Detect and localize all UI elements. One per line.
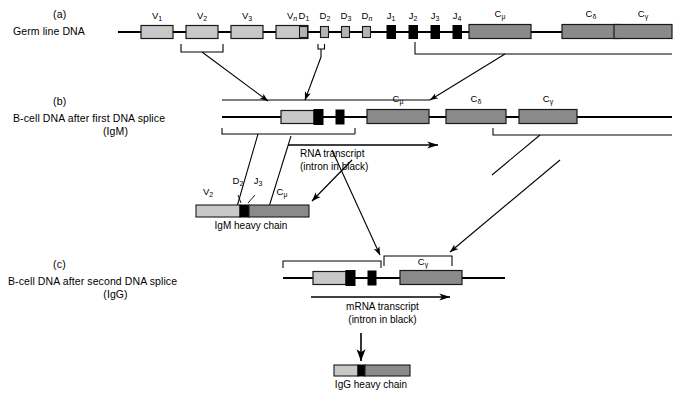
panel-label-a: Germ line DNA xyxy=(13,25,85,38)
v2-selection-bracket xyxy=(181,44,268,101)
igm-label-j3: J3 xyxy=(245,175,271,186)
rna-transcript-caption: RNA transcript (intron in black) xyxy=(300,148,430,173)
row-c-c-segments xyxy=(400,271,462,285)
segment-label-c-mu-b: Cμ xyxy=(378,93,418,104)
panel-label-b-sub: (IgM) xyxy=(13,125,218,138)
segment-label-j4: J4 xyxy=(441,10,473,21)
rna-transcript-line2: (intron in black) xyxy=(300,161,430,174)
row-b-vdj-bracket xyxy=(222,128,355,134)
figure-canvas: (a) Germ line DNA V1 V2 V3 Vn D1 D2 D3 D… xyxy=(0,0,681,396)
mrna-transcript-caption: mRNA transcript (intron in black) xyxy=(310,301,455,326)
panel-label-c: B-cell DNA after second DNA splice (IgG) xyxy=(8,275,223,301)
panel-letter-c: (c) xyxy=(53,258,66,270)
row-a-c-segments xyxy=(469,25,672,39)
row-b-to-igm-leaders xyxy=(236,134,291,210)
igm-chain-tick-leaders xyxy=(238,195,255,203)
panel-label-c-main: B-cell DNA after second DNA splice xyxy=(8,275,177,287)
igm-heavy-chain-bar xyxy=(196,205,309,217)
segment-label-c-delta-a: Cδ xyxy=(571,8,611,19)
rna-transcript-line1: RNA transcript xyxy=(300,148,430,161)
igm-label-c-mu: Cμ xyxy=(267,186,297,197)
d2-selection-bracket xyxy=(305,44,325,100)
segment-label-v3: V3 xyxy=(227,10,267,21)
igm-heavy-chain-label: IgM heavy chain xyxy=(190,220,312,231)
mrna-transcript-line2: (intron in black) xyxy=(310,314,455,327)
row-b-cgamma-bracket xyxy=(492,128,672,175)
mrna-transcript-line1: mRNA transcript xyxy=(310,301,455,314)
diagram-graphics xyxy=(0,0,681,396)
igg-heavy-chain-label: IgG heavy chain xyxy=(310,379,432,390)
segment-label-c-gamma-c: Cγ xyxy=(403,256,443,267)
segment-label-v2: V2 xyxy=(182,10,222,21)
panel-letter-b: (b) xyxy=(53,95,66,107)
panel-label-c-sub: (IgG) xyxy=(8,288,223,301)
panel-label-b: B-cell DNA after first DNA splice (IgM) xyxy=(13,112,218,138)
row-c-vdj-bracket xyxy=(283,261,381,268)
cgamma-to-rowc-arrow xyxy=(450,160,560,252)
panel-letter-a: (a) xyxy=(53,8,66,20)
segment-label-v1: V1 xyxy=(137,10,177,21)
segment-label-c-delta-b: Cδ xyxy=(456,93,496,104)
j3-to-c-selection-bracket xyxy=(415,42,672,100)
row-b-c-segments xyxy=(367,110,577,124)
segment-label-c-mu-a: Cμ xyxy=(480,8,520,19)
segment-label-c-gamma-b: Cγ xyxy=(528,93,568,104)
igm-label-v2: V2 xyxy=(195,186,221,197)
igg-heavy-chain-bar xyxy=(334,365,410,376)
segment-label-c-gamma-a: Cγ xyxy=(623,8,663,19)
panel-label-b-main: B-cell DNA after first DNA splice xyxy=(13,112,165,124)
